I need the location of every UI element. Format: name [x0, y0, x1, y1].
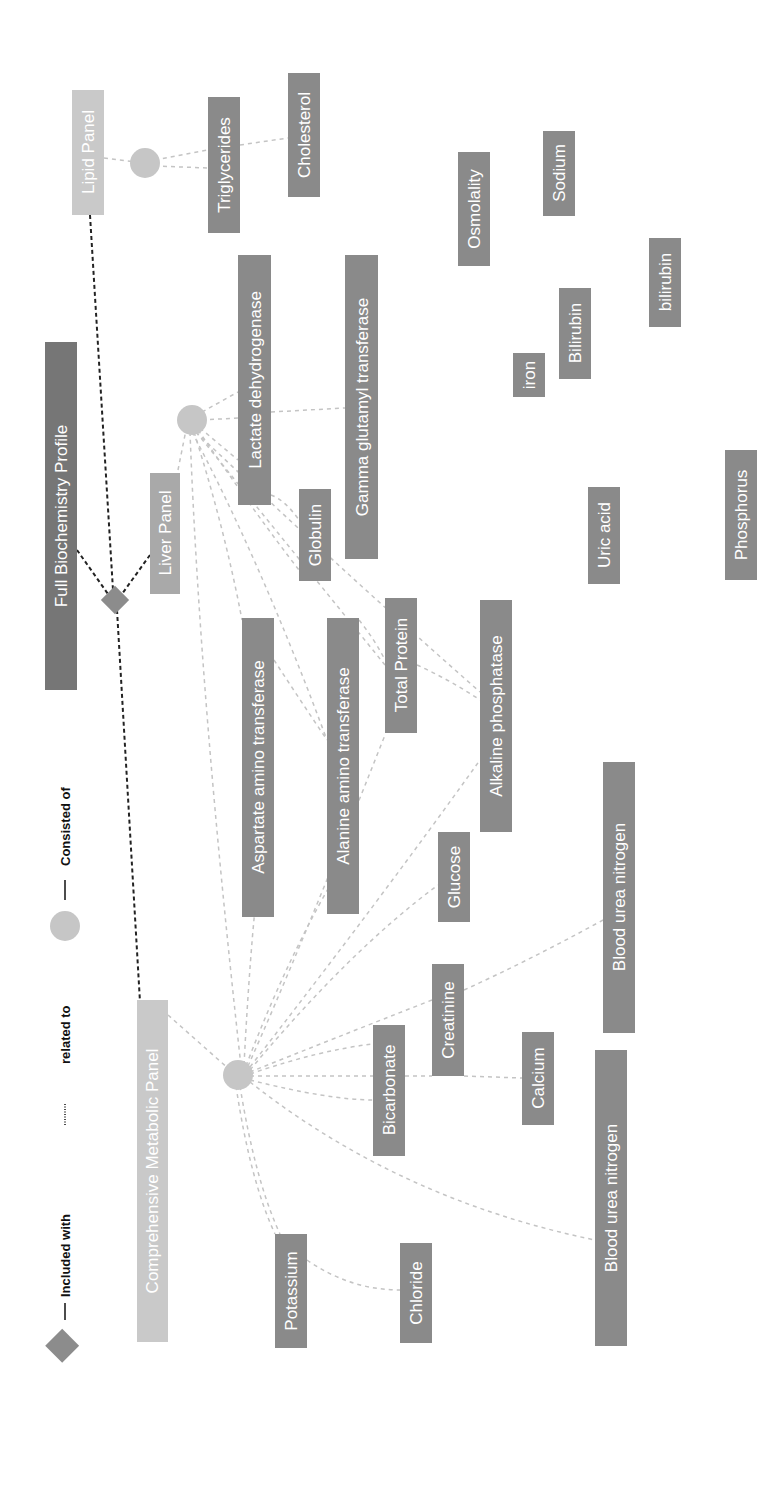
svg-text:Uric acid: Uric acid [595, 502, 614, 568]
svg-text:Lipid Panel: Lipid Panel [79, 110, 98, 194]
legend-circle-icon [50, 911, 80, 941]
node-full-biochemistry-profile[interactable]: Full Biochemistry Profile [45, 342, 77, 690]
svg-text:Liver Panel: Liver Panel [156, 490, 175, 575]
svg-text:iron: iron [520, 361, 539, 389]
svg-text:Sodium: Sodium [550, 144, 569, 202]
node-gamma-glutamyl-transferase[interactable]: Gamma glutamyl transferase [345, 255, 378, 559]
node-uric-acid[interactable]: Uric acid [588, 487, 620, 584]
node-bilirubin-upper[interactable]: Bilirubin [559, 288, 591, 379]
legend-consisted-of: Consisted of [58, 787, 73, 866]
node-potassium[interactable]: Potassium [275, 1234, 307, 1348]
node-total-protein[interactable]: Total Protein [385, 598, 417, 733]
svg-text:Triglycerides: Triglycerides [215, 117, 234, 213]
node-triglycerides[interactable]: Triglycerides [208, 97, 240, 233]
svg-text:Bilirubin: Bilirubin [566, 303, 585, 363]
svg-text:Chloride: Chloride [407, 1261, 426, 1324]
node-bicarbonate[interactable]: Bicarbonate [373, 1025, 405, 1156]
svg-text:Blood urea nitrogen: Blood urea nitrogen [610, 823, 629, 971]
legend: Included with related to Consisted of [45, 787, 80, 1363]
svg-text:Osmolality: Osmolality [465, 169, 484, 249]
svg-text:Full Biochemistry Profile: Full Biochemistry Profile [52, 425, 71, 607]
svg-text:Comprehensive Metabolic Panel: Comprehensive Metabolic Panel [143, 1049, 162, 1294]
svg-text:Alkaline phosphatase: Alkaline phosphatase [487, 635, 506, 797]
legend-related-to: related to [58, 1005, 73, 1064]
node-bilirubin-lower[interactable]: bilirubin [649, 238, 681, 327]
node-liver-panel[interactable]: Liver Panel [150, 473, 180, 594]
node-alkaline-phosphatase[interactable]: Alkaline phosphatase [480, 600, 512, 832]
svg-text:Total Protein: Total Protein [392, 618, 411, 713]
svg-text:Blood urea nitrogen: Blood urea nitrogen [602, 1124, 621, 1272]
node-chloride[interactable]: Chloride [400, 1243, 432, 1343]
node-alanine-amino-transferase[interactable]: Alanine amino transferase [327, 618, 359, 914]
legend-included-with: Included with [58, 1214, 73, 1297]
svg-text:bilirubin: bilirubin [656, 253, 675, 312]
node-lactate-dehydrogenase[interactable]: Lactate dehydrogenase [238, 255, 271, 505]
svg-text:Alanine amino transferase: Alanine amino transferase [334, 667, 353, 865]
node-aspartate-amino-transferase[interactable]: Aspartate amino transferase [242, 618, 274, 917]
svg-text:Cholesterol: Cholesterol [295, 92, 314, 178]
svg-text:Gamma glutamyl transferase: Gamma glutamyl transferase [353, 298, 372, 516]
node-glucose[interactable]: Glucose [438, 832, 470, 922]
node-globulin[interactable]: Globulin [299, 489, 331, 581]
svg-text:Globulin: Globulin [306, 504, 325, 566]
svg-text:Calcium: Calcium [529, 1047, 548, 1108]
svg-text:Creatinine: Creatinine [439, 981, 458, 1059]
node-lipid-panel[interactable]: Lipid Panel [72, 90, 104, 215]
svg-text:Potassium: Potassium [282, 1251, 301, 1330]
knowledge-graph-canvas: Lipid Panel Triglycerides Cholesterol Fu… [0, 0, 770, 1498]
node-sodium[interactable]: Sodium [543, 131, 575, 216]
cmp-hub [223, 1060, 253, 1090]
svg-text:Aspartate amino transferase: Aspartate amino transferase [249, 660, 268, 874]
svg-text:Glucose: Glucose [445, 846, 464, 908]
svg-text:Bicarbonate: Bicarbonate [380, 1045, 399, 1136]
legend-diamond-icon [45, 1329, 79, 1363]
liver-panel-hub [177, 405, 207, 435]
node-calcium[interactable]: Calcium [522, 1032, 554, 1125]
node-blood-urea-nitrogen-1[interactable]: Blood urea nitrogen [603, 762, 635, 1033]
node-phosphorus[interactable]: Phosphorus [725, 450, 757, 580]
node-cholesterol[interactable]: Cholesterol [288, 73, 320, 197]
node-comprehensive-metabolic-panel[interactable]: Comprehensive Metabolic Panel [137, 1000, 168, 1342]
node-iron[interactable]: iron [513, 353, 545, 397]
node-creatinine[interactable]: Creatinine [432, 964, 464, 1076]
node-blood-urea-nitrogen-2[interactable]: Blood urea nitrogen [595, 1050, 627, 1346]
svg-text:Phosphorus: Phosphorus [732, 470, 751, 561]
svg-text:Lactate dehydrogenase: Lactate dehydrogenase [246, 291, 265, 469]
node-osmolality[interactable]: Osmolality [458, 152, 490, 266]
lipid-panel-hub [130, 148, 160, 178]
